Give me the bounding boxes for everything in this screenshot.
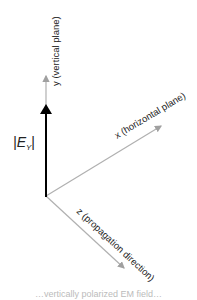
z-axis-label: z (propagation direction) [75, 205, 157, 283]
polarization-diagram: y (vertical plane) x (horizontal plane) … [0, 0, 197, 300]
field-magnitude-label: |EY| [13, 134, 35, 152]
field-label-prefix: |E [13, 134, 27, 150]
y-axis-label: y (vertical plane) [50, 16, 61, 86]
field-label-suffix: | [31, 134, 35, 150]
x-axis [46, 126, 161, 196]
caption: …vertically polarized EM field… [0, 289, 197, 299]
